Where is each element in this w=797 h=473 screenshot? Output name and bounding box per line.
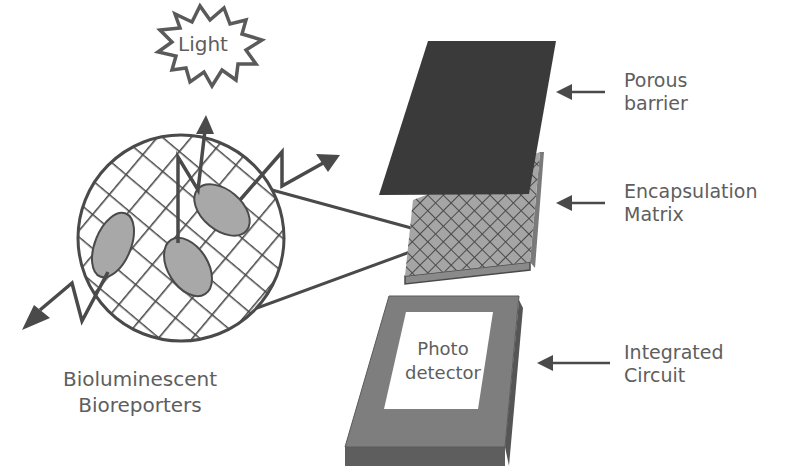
integrated-circuit-label: Integrated Circuit [624, 341, 724, 387]
light-text: Light [178, 33, 228, 56]
bioreporters-label: Bioluminescent Bioreporters [40, 366, 240, 418]
porous-barrier-layer [379, 41, 556, 195]
label-arrows [537, 84, 610, 371]
photodetector-line2: detector [395, 361, 491, 385]
porous-barrier-line2: barrier [624, 92, 688, 115]
photodetector-line1: Photo [395, 337, 491, 361]
bioreporters-line1: Bioluminescent [40, 366, 240, 392]
bioreporters-line2: Bioreporters [40, 392, 240, 418]
encapsulation-matrix-label: Encapsulation Matrix [624, 180, 757, 226]
integrated-circuit-line1: Integrated [624, 341, 724, 364]
porous-barrier-label: Porous barrier [624, 69, 688, 115]
photodetector-label: Photo detector [395, 337, 491, 385]
porous-barrier-line1: Porous [624, 69, 688, 92]
integrated-circuit-line2: Circuit [624, 364, 724, 387]
encapsulation-matrix-line2: Matrix [624, 203, 757, 226]
encapsulation-matrix-line1: Encapsulation [624, 180, 757, 203]
light-label: Light [178, 33, 228, 56]
